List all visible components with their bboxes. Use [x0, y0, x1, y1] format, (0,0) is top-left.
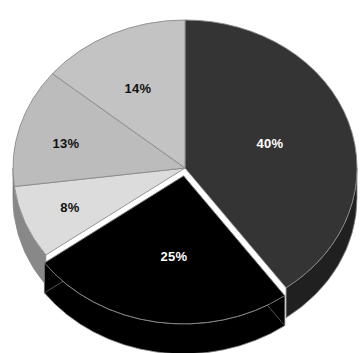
- pie-chart-svg: [0, 0, 364, 353]
- pie-chart: 40%25%8%13%14%: [0, 0, 364, 353]
